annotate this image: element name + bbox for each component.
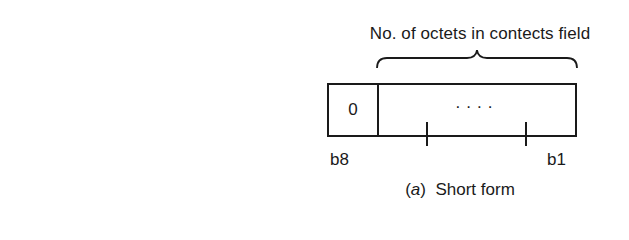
figure-caption: (a) Short form <box>380 180 540 200</box>
caption-sub-label: a <box>411 180 420 199</box>
bit8-cell: 0 <box>329 85 379 135</box>
lsb-label: b1 <box>547 150 566 170</box>
caption-title: Short form <box>435 180 514 199</box>
bit-tick-mark <box>426 122 428 146</box>
bit-tick-mark <box>525 122 527 146</box>
caption-close-paren: ) <box>420 180 426 199</box>
octet-count-caption: No. of octets in contects field <box>340 24 620 44</box>
length-bits-cell: .... <box>379 85 575 135</box>
curly-brace-icon <box>372 44 582 72</box>
octet-box: 0 .... <box>327 83 577 137</box>
msb-label: b8 <box>330 150 349 170</box>
